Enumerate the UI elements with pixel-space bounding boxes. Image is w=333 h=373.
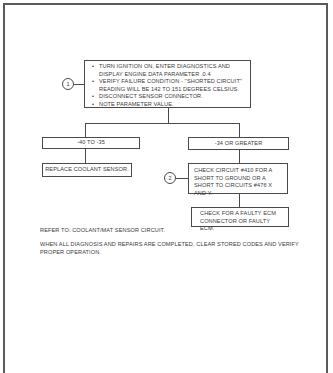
check-ecm-box: CHECK FOR A FAULTY ECM CONNECTOR OR FAUL… <box>191 207 289 227</box>
connector-step2-marker <box>176 178 188 179</box>
connector-left-down <box>85 149 86 163</box>
connector-branch <box>85 123 240 124</box>
connector-step2-down <box>239 194 240 207</box>
condition-right-label: -34 OR GREATER <box>215 140 263 148</box>
completion-note: WHEN ALL DIAGNOSIS AND REPAIRS ARE COMPL… <box>40 241 308 257</box>
step-2-number: 2 <box>168 175 171 181</box>
connector-step1-down <box>168 108 169 123</box>
step-1-bullet: DISCONNECT SENSOR CONNECTOR. <box>99 93 245 101</box>
step-1-list: TURN IGNITION ON, ENTER DIAGNOSTICS AND … <box>90 63 245 109</box>
connector-branch-right <box>239 123 240 137</box>
replace-sensor-box: REPLACE COOLANT SENSOR. <box>42 163 132 177</box>
connector-step1-marker <box>74 84 84 85</box>
refer-note: REFER TO: COOLANT/MAT SENSOR CIRCUIT. <box>40 227 310 235</box>
check-circuit-label: CHECK CIRCUIT #410 FOR A SHORT TO GROUND… <box>194 167 272 196</box>
condition-left-box: -40 TO -35 <box>42 137 140 149</box>
replace-sensor-label: REPLACE COOLANT SENSOR. <box>45 166 129 174</box>
check-circuit-box: CHECK CIRCUIT #410 FOR A SHORT TO GROUND… <box>188 163 288 194</box>
connector-right-down <box>239 150 240 163</box>
step-1-bullet: NOTE PARAMETER VALUE. <box>99 101 245 109</box>
step-2-marker: 2 <box>164 172 176 184</box>
step-1-number: 1 <box>66 81 69 87</box>
step-1-box: TURN IGNITION ON, ENTER DIAGNOSTICS AND … <box>84 60 251 108</box>
step-1-bullet: TURN IGNITION ON, ENTER DIAGNOSTICS AND … <box>99 63 245 78</box>
condition-left-label: -40 TO -35 <box>77 139 105 147</box>
step-1-marker: 1 <box>62 78 74 90</box>
condition-right-box: -34 OR GREATER <box>188 137 289 150</box>
step-1-bullet: VERIFY FAILURE CONDITION - ''SHORTED CIR… <box>99 78 245 93</box>
connector-branch-left <box>85 123 86 137</box>
